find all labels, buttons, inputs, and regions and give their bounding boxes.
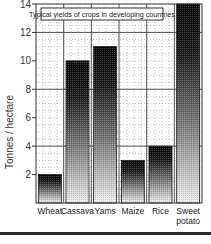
- chart-title: Typical yields of crops in developing co…: [29, 10, 175, 19]
- y-tick-label: 10: [20, 55, 32, 66]
- crop-yield-chart: 2468101214 WheatCassavaYamsMaizeRiceSwee…: [0, 0, 211, 244]
- x-tick-label: Maize: [121, 206, 144, 216]
- y-tick-label: 2: [25, 169, 31, 180]
- x-tick-labels: WheatCassavaYamsMaizeRiceSweetpotato: [38, 206, 201, 226]
- x-tick-label: Yams: [95, 206, 116, 216]
- y-tick-label: 4: [25, 141, 31, 152]
- y-tick-label: 12: [20, 27, 32, 38]
- y-tick-label: 14: [20, 0, 32, 10]
- x-tick-label: Rice: [152, 206, 169, 216]
- chart-canvas: 2468101214 WheatCassavaYamsMaizeRiceSwee…: [0, 0, 211, 244]
- y-axis-label-wrap: Tonnes / hectare: [2, 92, 16, 172]
- y-tick-label: 6: [25, 112, 31, 123]
- x-tick-label: Cassava: [61, 206, 94, 216]
- y-tick-label: 8: [25, 84, 31, 95]
- y-tick-labels: 2468101214: [20, 0, 32, 180]
- x-tick-label: Wheat: [38, 206, 63, 216]
- x-tick-label: potato: [176, 216, 200, 226]
- x-tick-label: Sweet: [176, 206, 200, 216]
- y-axis-label: Tonnes / hectare: [4, 95, 15, 169]
- chart-title-box: Typical yields of crops in developing co…: [29, 8, 175, 20]
- bottom-rule: [0, 232, 211, 235]
